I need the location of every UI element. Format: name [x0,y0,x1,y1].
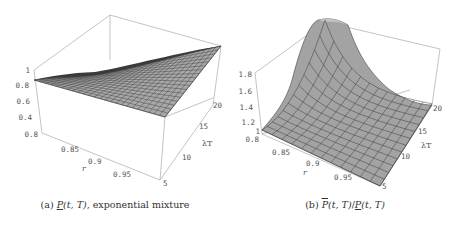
x-axis-label: r [303,168,308,177]
x-tick: 0.85 [61,145,79,154]
caption-suffix: , exponential mixture [87,199,190,210]
x-tick-start: 0.8 [245,135,259,144]
y-tick: 20 [433,104,443,113]
x-tick: 0.95 [334,173,352,182]
y-tick: 10 [401,152,411,161]
caption-prefix: (a) [41,199,57,210]
z-tick: 1.6 [238,87,252,96]
y-tick: 20 [213,101,223,110]
z-tick: 1 [25,66,30,75]
y-axis-label: λT [421,141,432,150]
caption-a: (a) P(t, T), exponential mixture [0,199,230,210]
caption-args: (t, T) [63,199,87,210]
x-tick: 0.85 [272,148,290,157]
z-tick: 1.8 [238,70,252,79]
z-tick: 0.6 [16,97,30,106]
caption-denominator-args: (t, T) [361,199,385,210]
x-tick: 0.9 [306,159,320,168]
x-axis-label: r [82,164,87,173]
caption-numerator-args: (t, T) [328,199,352,210]
caption-b: (b) P(t, T)/P(t, T) [230,199,460,210]
y-tick: 10 [182,153,192,162]
surface-a [34,46,221,117]
z-tick: 1.4 [239,103,253,112]
y-tick: 5 [163,179,168,188]
y-tick: 15 [418,127,427,136]
x-axis-ticks-a: 0.85 0.9 0.95 r [61,145,131,179]
x-tick: 0.95 [113,170,131,179]
z-tick: 0.8 [15,81,29,90]
y-axis-label: λT [202,139,213,148]
z-tick: 1.2 [241,118,255,127]
y-tick: 5 [382,182,387,191]
panel-b: 1.8 1.6 1.4 1.2 1 0.8 0.85 0.9 0.95 r 5 … [230,0,460,233]
panel-a: 1 0.8 0.6 0.4 0.8 0.85 0.9 0.95 r 5 10 1… [0,0,230,233]
caption-prefix: (b) [305,199,322,210]
z-tick: 0.4 [18,113,32,122]
y-tick: 15 [199,122,208,131]
z-axis-ticks-b: 1.8 1.6 1.4 1.2 1 0.8 [238,70,260,144]
x-tick: 0.9 [88,157,102,166]
x-tick-start: 0.8 [24,130,38,139]
